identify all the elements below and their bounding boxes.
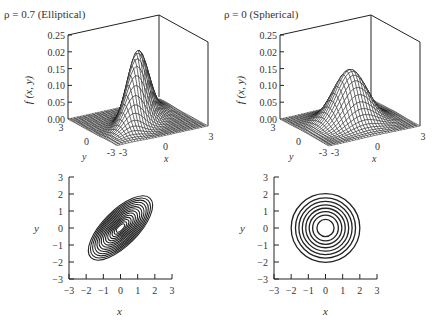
y-tick-label: 1 xyxy=(263,206,268,217)
x-tick-label: -3 xyxy=(331,147,339,158)
y-tick-label: 3 xyxy=(263,172,268,183)
contour-line xyxy=(317,219,334,236)
z-tick-label: 0.10 xyxy=(48,80,66,91)
x-tick-label: −2 xyxy=(286,285,297,296)
contour-line xyxy=(299,201,352,254)
x-tick-label: −1 xyxy=(303,285,314,296)
y-tick-label: 1 xyxy=(58,206,63,217)
y-tick-label: -3 xyxy=(107,147,115,158)
panel-title: ρ = 0.7 (Elliptical) xyxy=(4,8,86,21)
y-tick-label: −3 xyxy=(257,274,268,285)
x-tick-label: 3 xyxy=(421,131,426,142)
z-tick-label: 0.25 xyxy=(260,30,278,41)
x-axis-label: x xyxy=(163,153,169,164)
y-tick-label: -3 xyxy=(319,147,327,158)
y-tick-label: −2 xyxy=(52,257,63,268)
x-axis-label: x xyxy=(116,305,122,317)
x-tick-label: −2 xyxy=(81,285,92,296)
y-tick-label: 3 xyxy=(271,122,276,133)
z-tick-label: 0.15 xyxy=(260,64,278,75)
z-tick-label: 0.02 xyxy=(48,47,66,58)
y-axis-label: y xyxy=(33,222,39,234)
contour-line xyxy=(81,189,159,267)
y-tick-label: −1 xyxy=(257,240,268,251)
y-axis-label: y xyxy=(81,151,87,162)
surface-mesh xyxy=(280,69,420,146)
x-tick-label: 2 xyxy=(357,285,362,296)
contour-line xyxy=(291,194,360,263)
y-tick-label: 2 xyxy=(263,189,268,200)
x-tick-label: 3 xyxy=(170,285,175,296)
x-tick-label: 3 xyxy=(375,285,380,296)
x-tick-label: −1 xyxy=(98,285,109,296)
contour-plot-elliptical: −3−3−2−2−1−100112233 y x xyxy=(33,172,175,317)
x-tick-label: 2 xyxy=(152,285,157,296)
y-tick-label: 2 xyxy=(58,189,63,200)
contour-lines xyxy=(78,186,162,270)
surface-mesh xyxy=(68,50,208,146)
contour-lines xyxy=(291,194,360,263)
y-tick-label: −2 xyxy=(257,257,268,268)
z-tick-label: 0.02 xyxy=(260,47,278,58)
contour-line xyxy=(309,212,342,245)
x-tick-label: 0 xyxy=(163,141,168,152)
y-axis-label: y xyxy=(239,222,245,234)
figure: ρ = 0.7 (Elliptical) 0.250.020.150.100.0… xyxy=(0,0,433,330)
z-axis-label: f (x, y) xyxy=(22,75,35,104)
x-tick-label: 0 xyxy=(323,285,328,296)
surface-plot-elliptical: ρ = 0.7 (Elliptical) 0.250.020.150.100.0… xyxy=(4,8,214,164)
contour-line xyxy=(78,186,162,270)
z-tick-label: 0.05 xyxy=(260,97,278,108)
x-tick-label: 0 xyxy=(118,285,123,296)
y-tick-label: −1 xyxy=(52,240,63,251)
z-tick-label: 0.05 xyxy=(48,97,66,108)
contour-line xyxy=(306,208,345,247)
x-axis-label: x xyxy=(371,153,377,164)
y-tick-label: 0 xyxy=(58,223,63,234)
z-tick-label: 0.25 xyxy=(48,30,66,41)
contour-plot-spherical: −3−3−2−2−1−100112233 y x xyxy=(239,172,380,317)
panel-title: ρ = 0 (Spherical) xyxy=(224,8,299,21)
x-tick-label: 1 xyxy=(135,285,140,296)
z-tick-label: 0.10 xyxy=(260,80,278,91)
contour-line xyxy=(95,203,145,253)
y-tick-label: −3 xyxy=(52,274,63,285)
x-tick-label: 1 xyxy=(340,285,345,296)
y-tick-label: 0 xyxy=(84,136,89,147)
y-tick-label: 0 xyxy=(296,136,301,147)
x-tick-label: −3 xyxy=(64,285,75,296)
x-tick-label: 3 xyxy=(209,131,214,142)
z-tick-label: 0.15 xyxy=(48,64,66,75)
x-tick-label: -3 xyxy=(119,147,127,158)
y-tick-label: 3 xyxy=(59,122,64,133)
surface-plot-spherical: ρ = 0 (Spherical) 0.250.020.150.100.050.… xyxy=(224,8,426,164)
y-tick-label: 0 xyxy=(263,223,268,234)
y-axis-label: y xyxy=(288,151,294,162)
x-tick-label: 0 xyxy=(375,141,380,152)
contour-line xyxy=(84,192,157,265)
y-tick-label: 3 xyxy=(58,172,63,183)
x-axis-label: x xyxy=(322,305,328,317)
x-tick-label: −3 xyxy=(269,285,280,296)
contour-line xyxy=(295,198,355,258)
z-axis-label: f (x, y) xyxy=(234,75,247,104)
